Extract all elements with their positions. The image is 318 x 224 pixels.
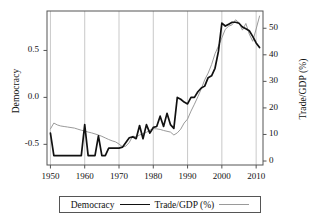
plot-frame (47, 11, 263, 165)
legend-swatch-trade (219, 204, 249, 205)
xtick-label-2010: 2010 (239, 171, 273, 181)
ytick-label-left--0.5: -0.5 (13, 138, 39, 148)
xtick-label-2000: 2000 (205, 171, 239, 181)
figure-chart: Democracy Trade/GDP (%) 0.50.0-0.5504030… (0, 0, 318, 224)
xtick-label-1950: 1950 (33, 171, 67, 181)
ytick-label-right-0: 0 (269, 155, 293, 165)
xtick-label-1960: 1960 (68, 171, 102, 181)
legend-label-trade: Trade/GDP (%) (155, 200, 215, 210)
ytick-label-right-20: 20 (269, 102, 293, 112)
plot-area (0, 0, 318, 224)
ytick-label-left-0.5: 0.5 (13, 44, 39, 54)
ytick-label-right-10: 10 (269, 128, 293, 138)
legend-label-democracy: Democracy (71, 200, 115, 210)
ytick-label-left-0.0: 0.0 (13, 91, 39, 101)
y-axis-right-title: Trade/GDP (%) (298, 44, 308, 134)
series-line-democracy (50, 22, 259, 155)
xtick-label-1990: 1990 (171, 171, 205, 181)
ytick-label-right-30: 30 (269, 75, 293, 85)
xtick-label-1980: 1980 (136, 171, 170, 181)
ytick-label-right-50: 50 (269, 22, 293, 32)
xtick-label-1970: 1970 (102, 171, 136, 181)
legend-swatch-democracy (120, 204, 150, 205)
chart-legend: Democracy Trade/GDP (%) (59, 196, 261, 213)
ytick-label-right-40: 40 (269, 49, 293, 59)
